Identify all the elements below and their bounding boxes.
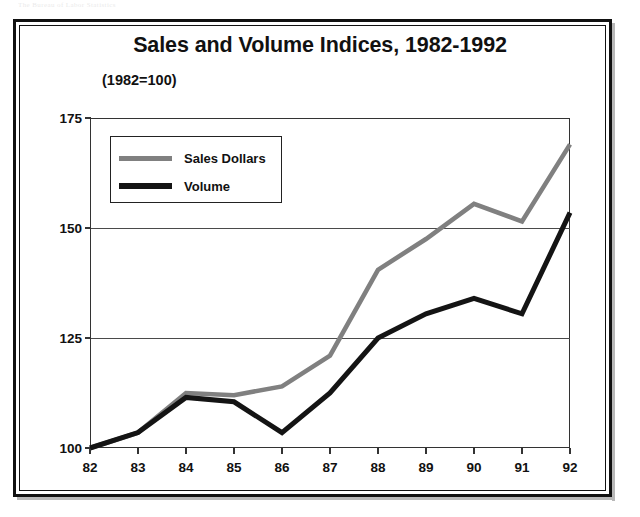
legend: Sales DollarsVolume xyxy=(110,136,282,203)
frame-shadow-right xyxy=(612,23,615,501)
frame-shadow-bottom xyxy=(17,497,615,500)
line-swatch-black xyxy=(119,183,172,189)
x-tick-label-86: 86 xyxy=(274,460,289,475)
x-tick-mark-84 xyxy=(185,448,186,454)
y-tick-label-175: 175 xyxy=(59,111,82,126)
x-tick-mark-88 xyxy=(377,448,378,454)
legend-item-sales-dollars: Sales Dollars xyxy=(119,148,266,168)
x-tick-label-91: 91 xyxy=(514,460,529,475)
x-tick-mark-89 xyxy=(425,448,426,454)
x-tick-label-89: 89 xyxy=(418,460,433,475)
x-tick-label-90: 90 xyxy=(466,460,481,475)
scan-artifact-text: The Bureau of Labor Statistics xyxy=(18,1,318,9)
x-tick-label-88: 88 xyxy=(370,460,385,475)
x-tick-mark-91 xyxy=(521,448,522,454)
x-tick-label-82: 82 xyxy=(82,460,97,475)
x-tick-mark-83 xyxy=(137,448,138,454)
x-tick-mark-90 xyxy=(473,448,474,454)
x-tick-label-84: 84 xyxy=(178,460,193,475)
x-tick-label-85: 85 xyxy=(226,460,241,475)
x-tick-label-92: 92 xyxy=(562,460,577,475)
x-tick-mark-92 xyxy=(569,448,570,454)
y-tick-label-100: 100 xyxy=(59,441,82,456)
x-tick-mark-85 xyxy=(233,448,234,454)
line-swatch-gray xyxy=(119,156,172,161)
legend-item-volume: Volume xyxy=(119,176,230,196)
series-line-volume xyxy=(90,213,570,448)
x-tick-label-87: 87 xyxy=(322,460,337,475)
y-tick-label-150: 150 xyxy=(59,221,82,236)
x-tick-label-83: 83 xyxy=(130,460,145,475)
x-tick-mark-86 xyxy=(281,448,282,454)
chart-title: Sales and Volume Indices, 1982-1992 xyxy=(0,33,640,58)
legend-label: Sales Dollars xyxy=(184,151,266,166)
y-tick-label-125: 125 xyxy=(59,331,82,346)
x-tick-mark-87 xyxy=(329,448,330,454)
chart-subtitle: (1982=100) xyxy=(102,72,177,88)
legend-label: Volume xyxy=(184,179,230,194)
